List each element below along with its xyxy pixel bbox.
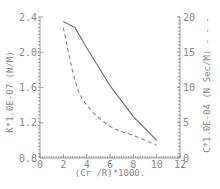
right-axis-title: C*1.0E-04 (N Sec/M) - - - — [202, 17, 212, 152]
k-stiffness-curve — [63, 21, 156, 140]
right-tick-label: 10 — [183, 82, 195, 93]
x-tick-label: 0 — [37, 159, 43, 170]
x-tick-label: 10 — [151, 159, 163, 170]
x-tick-label: 2 — [60, 159, 66, 170]
left-tick-label: 2.0 — [19, 47, 37, 58]
right-tick-label: 5 — [183, 117, 189, 128]
left-tick-label: 0.8 — [19, 153, 37, 164]
right-tick-label: 20 — [183, 12, 195, 23]
right-tick-label: 0 — [183, 153, 189, 164]
left-tick-label: 2.4 — [19, 12, 37, 23]
x-axis-title: (Cr /R)*1000. — [75, 168, 145, 178]
left-tick-label: 1.6 — [19, 82, 37, 93]
left-tick-label: 1.2 — [19, 117, 37, 128]
left-axis-title: K*1.0E-07 (N/M) — [5, 51, 15, 132]
right-tick-label: 15 — [183, 47, 195, 58]
chart: 024681012 0.81.21.62.02.4 05101520 (Cr /… — [0, 0, 220, 189]
minor-ticks — [38, 17, 180, 158]
